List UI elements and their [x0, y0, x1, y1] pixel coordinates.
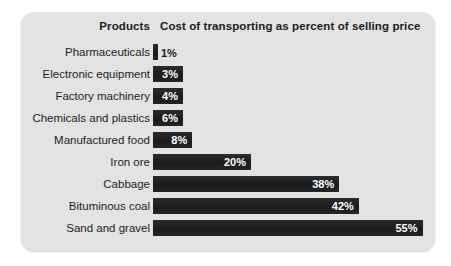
chart-header-row: Products Cost of transporting as percent…	[21, 20, 435, 40]
chart-rows: Pharmaceuticals1%Electronic equipment3%F…	[21, 43, 435, 241]
bar-track: 20%	[153, 154, 435, 170]
bar-value-label: 4%	[162, 89, 178, 103]
bar-value-label: 55%	[395, 221, 417, 235]
bar-track: 3%	[153, 66, 435, 82]
chart-card: Products Cost of transporting as percent…	[21, 12, 435, 251]
chart-row: Sand and gravel55%	[21, 219, 435, 241]
bar-track: 6%	[153, 110, 435, 126]
category-label: Electronic equipment	[21, 67, 150, 81]
bar: 3%	[153, 66, 183, 82]
bar-track: 42%	[153, 198, 435, 214]
bar-value-label: 42%	[332, 199, 354, 213]
column-header-measure: Cost of transporting as percent of selli…	[160, 20, 420, 32]
bar-track: 8%	[153, 132, 435, 148]
category-label: Manufactured food	[21, 133, 150, 147]
bar	[153, 44, 158, 60]
chart-row: Electronic equipment3%	[21, 65, 435, 87]
chart-row: Iron ore20%	[21, 153, 435, 175]
chart-row: Bituminous coal42%	[21, 197, 435, 219]
bar-track: 1%	[153, 44, 435, 60]
chart-row: Manufactured food8%	[21, 131, 435, 153]
chart-row: Pharmaceuticals1%	[21, 43, 435, 65]
bar-value-label: 20%	[224, 155, 246, 169]
category-label: Pharmaceuticals	[21, 45, 150, 59]
category-label: Cabbage	[21, 177, 150, 191]
column-header-products: Products	[21, 20, 150, 32]
bar: 6%	[153, 110, 183, 126]
bar-track: 4%	[153, 88, 435, 104]
category-label: Bituminous coal	[21, 199, 150, 213]
bar-value-label: 1%	[161, 46, 177, 60]
category-label: Sand and gravel	[21, 221, 150, 235]
chart-row: Factory machinery4%	[21, 87, 435, 109]
bar-value-label: 3%	[162, 67, 178, 81]
bar: 42%	[153, 198, 359, 214]
bar: 20%	[153, 154, 251, 170]
category-label: Iron ore	[21, 155, 150, 169]
chart-row: Chemicals and plastics6%	[21, 109, 435, 131]
category-label: Chemicals and plastics	[21, 111, 150, 125]
bar: 4%	[153, 88, 183, 104]
bar-track: 55%	[153, 220, 435, 236]
bar-value-label: 6%	[162, 111, 178, 125]
bar: 8%	[153, 132, 192, 148]
bar-value-label: 8%	[171, 133, 187, 147]
chart-row: Cabbage38%	[21, 175, 435, 197]
bar-track: 38%	[153, 176, 435, 192]
bar: 38%	[153, 176, 339, 192]
bar-chart-figure: Products Cost of transporting as percent…	[0, 0, 451, 266]
bar-value-label: 38%	[312, 177, 334, 191]
bar: 55%	[153, 220, 423, 236]
category-label: Factory machinery	[21, 89, 150, 103]
